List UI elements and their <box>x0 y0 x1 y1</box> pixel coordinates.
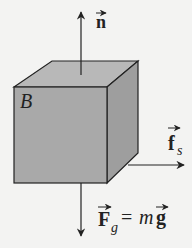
svg-text:s: s <box>177 143 183 158</box>
svg-text:m: m <box>139 206 153 228</box>
gravity-force-label: F g = m g <box>98 206 168 235</box>
svg-text:n: n <box>96 12 106 32</box>
svg-text:g: g <box>156 206 166 229</box>
object-label: B <box>20 90 32 112</box>
normal-force-label: n <box>96 12 106 32</box>
svg-text:g: g <box>111 220 118 235</box>
friction-force-label: f s <box>168 128 183 158</box>
free-body-diagram: B n f s F g = m g <box>0 0 192 248</box>
svg-text:=: = <box>121 206 132 228</box>
cube-block <box>14 61 138 183</box>
svg-text:F: F <box>98 208 110 230</box>
svg-text:f: f <box>168 132 175 154</box>
